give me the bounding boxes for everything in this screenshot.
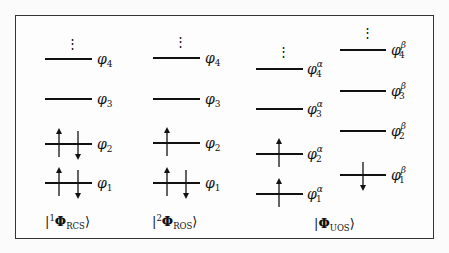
orbital-uos-beta-4: φβ4 <box>340 40 406 60</box>
orbital-rcs-3: φ3 <box>45 91 113 109</box>
orbital-rcs-4: φ4 <box>45 51 113 69</box>
svg-text:φβ4: φβ4 <box>391 40 406 60</box>
svg-text:φ4: φ4 <box>97 51 113 69</box>
svg-text:φβ1: φβ1 <box>391 165 406 185</box>
svg-text:φ3: φ3 <box>97 91 113 109</box>
ellipsis-uos-alpha: ⋮ <box>277 44 290 59</box>
ellipsis-rcs: ⋮ <box>66 36 79 51</box>
column-rcs: ⋮ φ4 φ3 φ2 φ1 |1ΦRCS⟩ <box>45 36 113 231</box>
svg-text:φα1: φα1 <box>307 184 323 204</box>
orbital-uos-alpha-2: φα2 <box>256 141 323 167</box>
svg-text:φβ3: φβ3 <box>391 81 406 101</box>
svg-text:φβ2: φβ2 <box>391 121 406 141</box>
orbital-rcs-1: φ1 <box>45 170 113 196</box>
orbital-ros-3: φ3 <box>153 91 221 109</box>
svg-text:φ1: φ1 <box>97 175 113 193</box>
column-ros: ⋮ φ4 φ3 φ2 φ1 |2ΦROS⟩ <box>152 34 221 231</box>
orbital-uos-alpha-4: φα4 <box>256 59 323 79</box>
svg-text:φα2: φα2 <box>307 144 323 164</box>
orbital-uos-beta-3: φβ3 <box>340 81 406 101</box>
svg-text:φα4: φα4 <box>307 59 323 79</box>
orbital-ros-1: φ1 <box>153 170 221 196</box>
ellipsis-uos-beta: ⋮ <box>361 25 374 40</box>
svg-text:φ1: φ1 <box>205 175 221 193</box>
svg-text:φ2: φ2 <box>205 135 221 153</box>
ellipsis-ros: ⋮ <box>174 34 187 49</box>
state-label-rcs: |1ΦRCS⟩ <box>45 213 90 231</box>
orbital-uos-alpha-3: φα3 <box>256 99 323 119</box>
column-uos-beta: ⋮ φβ4 φβ3 φβ2 φβ1 <box>340 25 406 188</box>
svg-text:φα3: φα3 <box>307 99 323 119</box>
orbital-uos-beta-2: φβ2 <box>340 121 406 141</box>
column-uos-alpha: ⋮ φα4 φα3 φα2 φα1 <box>256 44 323 207</box>
svg-text:φ4: φ4 <box>205 50 221 68</box>
svg-text:φ3: φ3 <box>205 91 221 109</box>
orbital-ros-2: φ2 <box>153 130 221 156</box>
state-label-uos: |ΦUOS⟩ <box>314 216 355 233</box>
state-label-ros: |2ΦROS⟩ <box>152 213 197 231</box>
orbital-uos-beta-1: φβ1 <box>340 162 406 188</box>
orbital-ros-4: φ4 <box>153 50 221 68</box>
orbital-uos-alpha-1: φα1 <box>256 181 323 207</box>
svg-text:φ2: φ2 <box>97 136 113 154</box>
orbital-rcs-2: φ2 <box>45 131 113 157</box>
orbital-diagram: ⋮ φ4 φ3 φ2 φ1 |1ΦRCS⟩ ⋮ φ4 <box>0 0 449 253</box>
